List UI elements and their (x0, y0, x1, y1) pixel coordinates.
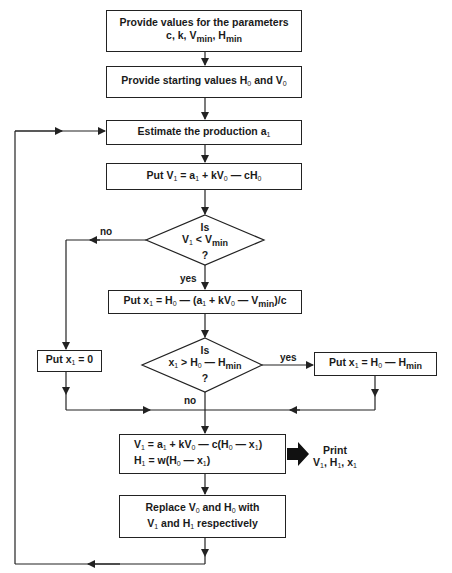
step-line: Put V1 = a1 + kV0 — cH0 (147, 169, 262, 185)
step-line: H1 = w(H0 — x1) (134, 454, 210, 470)
decision-2-text: Is x1 > H0 — Hmin ? (155, 344, 255, 384)
decision-line: Is (165, 221, 245, 233)
step-line: V1 = a1 + kV0 — c(H0 — x1) (134, 438, 262, 454)
print-output: Print V1, H1, x1 (305, 444, 365, 472)
step-line: Put x1 = H0 — (a1 + kV0 — Vmin)/c (124, 294, 287, 311)
decision-line: x1 > H0 — Hmin (155, 356, 255, 372)
decision-line: Is (155, 344, 255, 356)
decision-line: ? (155, 372, 255, 384)
step-estimate: Estimate the production a1 (106, 120, 302, 145)
step-provide-parameters: Provide values for the parameters c, k, … (106, 10, 302, 52)
step-line: Put x1 = H0 — Hmin (329, 356, 422, 373)
step-line: Provide values for the parameters (119, 16, 288, 29)
decision-1-text: Is V1 < Vmin ? (165, 221, 245, 261)
step-line: Estimate the production a1 (138, 125, 271, 141)
step-replace: Replace V0 and H0 with V1 and H1 respect… (119, 495, 286, 538)
step-line: Replace V0 and H0 with (145, 501, 259, 517)
step-line: V1 and H1 respectively (147, 517, 258, 533)
print-vars: V1, H1, x1 (305, 456, 365, 472)
step-provide-start: Provide starting values H0 and V0 (106, 66, 302, 98)
print-label: Print (305, 444, 365, 456)
step-line: c, k, Vmin, Hmin (166, 29, 242, 46)
step-put-v1: Put V1 = a1 + kV0 — cH0 (106, 163, 302, 190)
edge-label-no: no (100, 226, 112, 237)
step-put-x1-formula: Put x1 = H0 — (a1 + kV0 — Vmin)/c (108, 290, 302, 314)
step-compute: V1 = a1 + kV0 — c(H0 — x1) H1 = w(H0 — x… (119, 434, 286, 474)
step-put-x1-zero: Put x1 = 0 (37, 350, 102, 372)
decision-line: ? (165, 249, 245, 261)
step-line: Put x1 = 0 (46, 353, 93, 369)
step-put-x1-hmin: Put x1 = H0 — Hmin (314, 352, 437, 376)
edge-label-yes: yes (280, 352, 297, 363)
edge-label-yes: yes (180, 273, 197, 284)
edge-label-no: no (184, 395, 196, 406)
decision-line: V1 < Vmin (165, 233, 245, 249)
step-line: Provide starting values H0 and V0 (121, 74, 286, 90)
